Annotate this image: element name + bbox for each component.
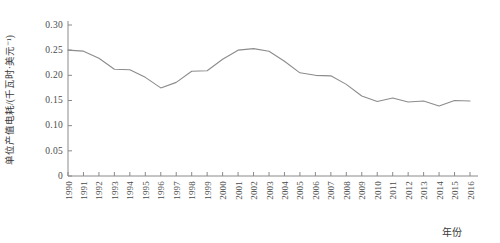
y-tick-label: 0.20 — [45, 70, 63, 80]
y-tick-label: 0.10 — [45, 120, 63, 130]
x-tick-label: 2004 — [280, 181, 290, 200]
chart-figure: 单位产值电耗/(千瓦时·美元⁻¹) 00.050.100.150.200.250… — [0, 0, 500, 243]
x-tick-label: 2005 — [295, 181, 305, 200]
line-chart-svg: 单位产值电耗/(千瓦时·美元⁻¹) 00.050.100.150.200.250… — [0, 0, 500, 243]
x-tick-label: 2011 — [388, 181, 398, 199]
x-tick-label: 2006 — [311, 181, 321, 200]
x-tick-label: 2003 — [265, 181, 275, 200]
x-tick-label: 1991 — [79, 181, 89, 200]
x-tick-label: 1993 — [110, 181, 120, 200]
x-tick-label: 2002 — [249, 181, 259, 200]
x-tick-label: 2015 — [450, 181, 460, 200]
x-tick-label: 2007 — [326, 181, 336, 200]
x-axis-title: 年份 — [442, 226, 462, 238]
x-tick-label: 1997 — [172, 181, 182, 200]
x-tick-label: 2009 — [357, 181, 367, 200]
y-tick-label: 0 — [58, 171, 63, 181]
x-tick-label: 2000 — [218, 181, 228, 200]
x-tick-label: 1994 — [125, 181, 135, 200]
x-tick-label: 2008 — [342, 181, 352, 200]
y-tick-label: 0.15 — [45, 95, 63, 105]
y-tick-label: 0.05 — [45, 146, 63, 156]
x-tick-label: 2001 — [234, 181, 244, 200]
y-axis-title: 单位产值电耗/(千瓦时·美元⁻¹) — [4, 35, 16, 165]
x-tick-label: 1995 — [141, 181, 151, 200]
axes — [68, 21, 478, 176]
y-tick-label: 0.30 — [45, 20, 63, 30]
x-tick-label: 1992 — [94, 181, 104, 200]
x-tick-label: 2016 — [466, 181, 476, 200]
y-tick-label: 0.25 — [45, 45, 63, 55]
x-tick-label: 2013 — [419, 181, 429, 200]
x-tick-label: 2012 — [404, 181, 414, 200]
x-tick-label: 1996 — [156, 181, 166, 200]
x-tick-label: 1999 — [203, 181, 213, 200]
data-series-line — [68, 49, 470, 106]
x-tick-label: 2010 — [373, 181, 383, 200]
x-tick-label: 2014 — [435, 181, 445, 200]
x-tick-label: 1998 — [187, 181, 197, 200]
x-tick-label: 1990 — [64, 181, 74, 200]
